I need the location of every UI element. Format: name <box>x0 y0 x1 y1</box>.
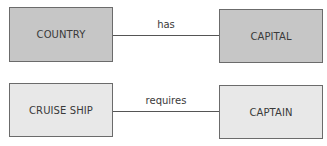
relationship-label-requires: requires <box>113 95 219 106</box>
entity-capital: CAPITAL <box>219 9 323 63</box>
relationship-line-requires <box>113 111 219 112</box>
entity-label: CAPTAIN <box>249 107 292 118</box>
entity-captain: CAPTAIN <box>219 85 323 139</box>
entity-label: CRUISE SHIP <box>29 105 93 116</box>
relationship-label-has: has <box>113 19 219 30</box>
entity-cruise-ship: CRUISE SHIP <box>9 83 113 137</box>
entity-label: COUNTRY <box>37 29 86 40</box>
entity-label: CAPITAL <box>250 31 291 42</box>
relationship-line-has <box>113 35 219 36</box>
entity-country: COUNTRY <box>9 7 113 62</box>
